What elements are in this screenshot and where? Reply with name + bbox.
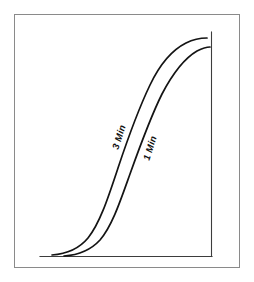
curve-1min (64, 47, 210, 256)
curve-3min (52, 38, 207, 255)
chart-plot-area: 3 Min 1 Min (0, 0, 254, 282)
figure-container: 3 Min 1 Min (0, 0, 254, 282)
